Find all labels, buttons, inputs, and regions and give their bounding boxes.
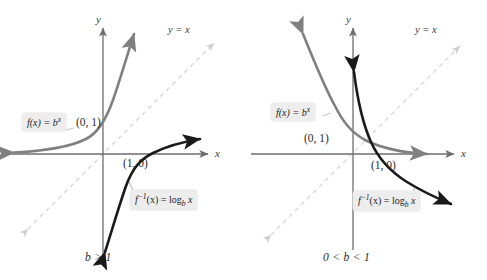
identity-line-label: y = x <box>415 25 437 36</box>
logarithmic-function-label: f−1(x) = logb x <box>353 191 420 211</box>
y-axis-label: y <box>96 14 101 25</box>
point-label-0-1: (0, 1) <box>304 133 329 145</box>
log-label-superscript: −1 <box>361 193 370 202</box>
graph-canvas-right <box>243 0 487 280</box>
log-label-argument: x <box>408 195 415 206</box>
exponential-curve <box>14 34 134 153</box>
graph-panel-b-greater-than-1: x y y = x f(x) = bx f−1(x) = logb x (0, … <box>0 0 244 280</box>
log-label-mid: (x) = log <box>147 194 182 205</box>
point-label-1-0: (1, 0) <box>371 160 396 172</box>
identity-line-label: y = x <box>168 25 190 36</box>
logarithmic-curve <box>354 72 451 204</box>
log-label-superscript: −1 <box>138 192 147 201</box>
graph-panel-b-between-0-and-1: x y y = x f(x) = bx f−1(x) = logb x (0, … <box>243 0 487 280</box>
exponential-label-exponent: x <box>307 105 310 114</box>
point-label-1-0: (1, 0) <box>123 158 148 170</box>
point-label-0-1: (0, 1) <box>76 117 101 129</box>
leader-line-exp-label <box>323 113 331 116</box>
condition-label: b > 1 <box>85 252 112 264</box>
log-label-mid: (x) = log <box>370 195 405 206</box>
graph-canvas-left <box>0 0 244 280</box>
exponential-label-text: f(x) = b <box>27 117 58 128</box>
condition-label: 0 < b < 1 <box>323 252 370 264</box>
log-label-argument: x <box>185 194 192 205</box>
exponential-function-label: f(x) = bx <box>22 113 66 131</box>
figure-root: x y y = x f(x) = bx f−1(x) = logb x (0, … <box>0 0 487 280</box>
x-axis-label: x <box>215 148 220 159</box>
logarithmic-function-label: f−1(x) = logb x <box>130 190 197 210</box>
exponential-function-label: f(x) = bx <box>271 103 315 121</box>
leader-line-exp-label <box>66 128 74 130</box>
exponential-label-text: f(x) = b <box>276 107 307 118</box>
exponential-label-exponent: x <box>58 115 61 124</box>
y-axis-label: y <box>346 14 351 25</box>
x-axis-label: x <box>461 148 466 159</box>
